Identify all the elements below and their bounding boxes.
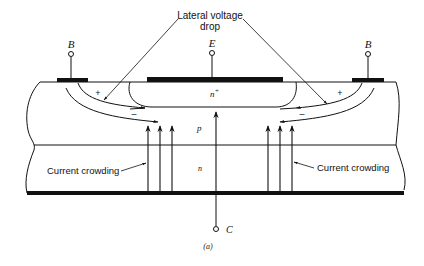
emitter-terminal xyxy=(210,51,215,56)
collector-contact xyxy=(27,191,404,195)
plus-left: + xyxy=(95,88,100,98)
collector-terminal xyxy=(214,227,219,232)
plus-right: + xyxy=(337,88,342,98)
base-right-label: B xyxy=(365,38,372,50)
minus-right: – xyxy=(299,109,304,119)
left-break-edge xyxy=(26,82,40,193)
base-left-label: B xyxy=(68,38,75,50)
emitter-region-label: n+ xyxy=(210,87,220,99)
base-region-label: p xyxy=(196,123,202,133)
collector-region-label: n xyxy=(198,164,202,173)
collector-label: C xyxy=(226,224,233,235)
lateral-voltage-drop-label: Lateral voltage xyxy=(177,10,243,21)
right-break-edge xyxy=(396,82,405,190)
minus-left: – xyxy=(131,109,136,119)
lateral-voltage-drop-label-2: drop xyxy=(200,21,220,32)
base-current-flow xyxy=(66,83,374,122)
current-crowding-right-label: Current crowding xyxy=(317,162,389,173)
figure-caption: (a) xyxy=(203,242,213,251)
current-crowding-left-label: Current crowding xyxy=(47,165,119,176)
current-crowding-leaders xyxy=(121,162,314,171)
transistor-cross-section-diagram: Lateral voltage drop B E B C n+ p n + – … xyxy=(0,0,424,266)
collector-current-arrows xyxy=(148,112,292,191)
base-left-contact xyxy=(57,78,88,82)
base-right-contact xyxy=(352,78,384,82)
base-right-terminal xyxy=(366,52,371,57)
emitter-contact xyxy=(147,77,283,82)
emitter-label: E xyxy=(208,37,216,49)
base-left-terminal xyxy=(69,52,74,57)
